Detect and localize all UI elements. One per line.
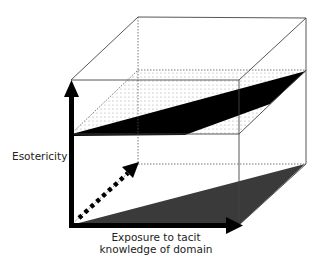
depth-dashed-arrow bbox=[79, 162, 139, 218]
x-axis-label: Exposure to tacit knowledge of domain bbox=[96, 231, 216, 255]
x-axis-label-line2: knowledge of domain bbox=[96, 243, 216, 255]
lower-grey-triangle bbox=[75, 164, 305, 225]
x-axis-label-line1: Exposure to tacit bbox=[96, 231, 216, 243]
y-axis-label: Esotericity bbox=[12, 150, 67, 162]
cube-diagram bbox=[0, 0, 319, 266]
